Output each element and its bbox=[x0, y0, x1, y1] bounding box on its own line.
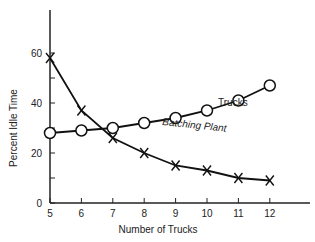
x-marker bbox=[109, 133, 117, 143]
trucks-label: Trucks bbox=[218, 97, 248, 108]
x-tick-label: 5 bbox=[47, 208, 53, 219]
x-tick-label: 11 bbox=[233, 208, 244, 219]
x-marker bbox=[77, 106, 85, 116]
series-line bbox=[50, 58, 270, 181]
y-tick-label: 20 bbox=[31, 148, 43, 159]
x-tick-label: 8 bbox=[141, 208, 147, 219]
circle-marker bbox=[45, 128, 56, 139]
batching-plant-label: Batching Plant bbox=[162, 116, 228, 134]
x-tick-label: 12 bbox=[264, 208, 276, 219]
circle-marker bbox=[76, 125, 87, 136]
x-tick-label: 6 bbox=[79, 208, 85, 219]
x-tick-label: 10 bbox=[201, 208, 213, 219]
y-axis-label: Percent Idle Time bbox=[8, 89, 19, 167]
circle-marker bbox=[202, 105, 213, 116]
idle-time-chart: 567891011120204060 Trucks Batching Plant… bbox=[0, 0, 315, 242]
y-tick-label: 40 bbox=[31, 98, 43, 109]
series bbox=[45, 53, 276, 186]
x-marker bbox=[140, 148, 148, 158]
circle-marker bbox=[107, 123, 118, 134]
y-tick-label: 0 bbox=[36, 198, 42, 209]
x-tick-label: 9 bbox=[173, 208, 179, 219]
x-axis-label: Number of Trucks bbox=[119, 224, 198, 235]
y-tick-label: 60 bbox=[31, 48, 43, 59]
x-tick-label: 7 bbox=[110, 208, 116, 219]
circle-marker bbox=[139, 118, 150, 129]
circle-marker bbox=[264, 80, 275, 91]
